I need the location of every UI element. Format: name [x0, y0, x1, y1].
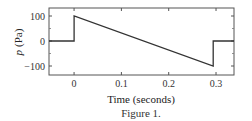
pressure-series-line: [49, 16, 234, 66]
y-tick-label: 0: [40, 36, 45, 47]
x-axis-ticks: 00.10.20.3: [72, 8, 223, 89]
x-tick-label: 0.2: [162, 78, 175, 89]
x-tick-label: 0.3: [210, 78, 223, 89]
x-tick-label: 0.1: [115, 78, 128, 89]
y-axis-label: p(Pa): [12, 28, 25, 56]
y-tick-label: −100: [24, 61, 45, 72]
pressure-time-chart: 1000−100 00.10.20.3 p(Pa) Time (seconds)…: [0, 0, 252, 121]
figure-caption: Figure 1.: [121, 107, 161, 119]
y-tick-label: 100: [30, 11, 45, 22]
plot-frame: [49, 8, 234, 75]
x-tick-label: 0: [72, 78, 77, 89]
x-axis-label: Time (seconds): [107, 93, 175, 106]
